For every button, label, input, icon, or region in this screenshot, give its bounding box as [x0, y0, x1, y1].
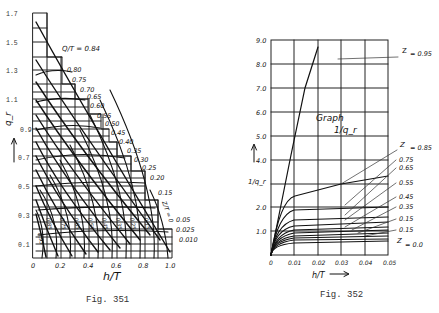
- y-tick: 7.0: [256, 85, 266, 93]
- fig351-family-label: Q/T = 0.84: [62, 45, 100, 53]
- y-tick: 1.5: [6, 40, 18, 47]
- y-tick: 8.0: [256, 61, 266, 69]
- x-tick: 0.05: [383, 259, 397, 266]
- y-tick: 1.1: [6, 97, 18, 104]
- curve-label: 0.50: [105, 120, 119, 128]
- curve-label: 0.010: [179, 236, 198, 244]
- curve-label: 0.55: [97, 112, 111, 120]
- x-tick: 1.0: [165, 262, 175, 270]
- y-tick: 0.5: [18, 184, 30, 191]
- fig352-curves: [271, 47, 388, 255]
- curve-label: 0.75: [72, 76, 86, 84]
- y-tick: 5.0: [256, 133, 266, 141]
- figure-caption: Fig. 351: [86, 295, 129, 305]
- x-tick: 0: [31, 262, 35, 270]
- curve-label: 0.35: [399, 203, 413, 211]
- curve-label: 0.15: [399, 226, 413, 234]
- curve-label: 0.75: [399, 156, 413, 164]
- curve-label-00: = 0.0: [405, 241, 423, 249]
- curve-label: 0.60: [90, 102, 104, 110]
- x-axis-label: h/T: [312, 271, 326, 280]
- fig352-y-ticks: 9.0 8.0 7.0 6.0 5.0 4.0 2.0 1.0: [256, 37, 266, 236]
- x-tick: 0.6: [111, 262, 121, 270]
- x-axis-label: h/T: [103, 270, 122, 283]
- curve-label: 0.80: [67, 66, 81, 74]
- y-tick: 1.7: [6, 11, 18, 18]
- curve-label: 0.15: [158, 189, 172, 197]
- curve-label: 0.20: [150, 174, 164, 182]
- fig352-leaders: [338, 57, 398, 236]
- figures-canvas: 1.7 1.5 1.3 1.1 0.9 0.7 0.5 0.3 0.1 q_r …: [0, 0, 439, 313]
- zt-fraction: Z: [399, 141, 405, 149]
- fig352-chart: 9.0 8.0 7.0 6.0 5.0 4.0 2.0 1.0 1/q_r 0 …: [248, 37, 432, 300]
- fig352-annotation: Graph 1/q_r: [316, 113, 358, 135]
- curve-label: 0.40: [119, 138, 133, 146]
- curve-label: 0.65: [399, 164, 413, 172]
- fig352-right-labels: Z = 0.95 Z = 0.85 0.75 0.65 0.55 0.45 0.…: [396, 47, 432, 249]
- curve-label: 0.25: [142, 164, 156, 172]
- figure-caption: Fig. 352: [320, 290, 363, 300]
- x-tick: 0.02: [312, 259, 326, 266]
- fig351-x-ticks: 0 0.2 0.4 0.6 0.8 1.0: [31, 262, 175, 270]
- fig351-y-label: q_r: [3, 111, 17, 162]
- y-tick: 0.3: [18, 213, 30, 220]
- x-tick: 0.2: [55, 262, 65, 270]
- fig352-x-ticks: 0 0.01 0.02 0.03 0.04 0.05: [269, 259, 397, 266]
- zt-label: Z/T = 0: [161, 199, 176, 224]
- curve-label-095: = 0.95: [410, 50, 432, 58]
- fig352-x-label: h/T: [312, 271, 349, 280]
- x-tick: 0.01: [288, 259, 301, 266]
- zt-fraction: Z: [402, 47, 407, 55]
- fig351-y-ticks: 1.7 1.5 1.3 1.1 0.9 0.7 0.5 0.3 0.1: [6, 11, 32, 249]
- curve-label: 0.65: [87, 93, 101, 101]
- curve-label: 0.45: [399, 193, 413, 201]
- graph-label: Graph: [316, 113, 344, 123]
- curve-label: 0.45: [111, 129, 125, 137]
- curve-label: 0.025: [176, 226, 195, 234]
- y-tick: 1.0: [256, 228, 266, 236]
- x-tick: 0.04: [359, 259, 373, 266]
- y-axis-label: 1/q_r: [248, 178, 267, 186]
- y-tick: 9.0: [256, 37, 266, 45]
- x-tick: 0.03: [335, 259, 349, 266]
- curve-label: 0.35: [127, 147, 141, 155]
- fig351-chart: 1.7 1.5 1.3 1.1 0.9 0.7 0.5 0.3 0.1 q_r …: [3, 11, 198, 305]
- fig352-y-label: 1/q_r: [248, 144, 267, 186]
- y-tick: 6.0: [256, 109, 266, 117]
- qt-label: Q/T = 0.84: [62, 45, 100, 53]
- y-tick: 2.0: [256, 204, 266, 212]
- y-tick: 0.1: [18, 242, 30, 249]
- curve-label: 0.05: [176, 216, 190, 224]
- y-tick: 1.3: [6, 68, 18, 75]
- curve-label: 0.55: [399, 179, 413, 187]
- x-tick: 0: [269, 259, 273, 266]
- curve-label-085: = 0.85: [410, 144, 432, 152]
- y-axis-label: q_r: [3, 111, 13, 126]
- curve-label: 0.30: [134, 156, 148, 164]
- x-tick: 0.4: [83, 262, 93, 270]
- curve-label: 0.15: [399, 215, 413, 223]
- y-tick: 4.0: [256, 157, 266, 165]
- graph-label-sub: 1/q_r: [334, 125, 358, 135]
- y-tick: 0.7: [18, 155, 30, 162]
- zt-fraction: Z: [396, 237, 402, 245]
- y-tick: 0.9: [20, 127, 32, 134]
- x-tick: 0.8: [138, 262, 148, 270]
